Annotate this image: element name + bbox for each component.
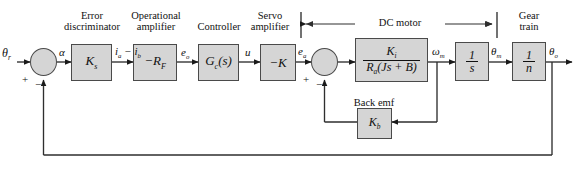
block-diagram: Error discriminator Operational amplifie… — [0, 0, 580, 177]
signal-current-difference: ia − ib — [115, 46, 141, 60]
caption-line-1: Operational — [131, 10, 181, 21]
motor-numerator: Ki — [363, 45, 419, 60]
summing-junction-input[interactable] — [30, 48, 57, 76]
block-ks[interactable]: Ks — [71, 44, 112, 81]
block-minus-rf-label: −RF — [144, 54, 166, 71]
signal-theta-r: θr — [2, 47, 11, 62]
block-kb-label: Kb — [369, 116, 381, 131]
integrator-fraction: 1 s — [466, 49, 478, 74]
integrator-numerator: 1 — [466, 49, 478, 61]
caption-back-emf: Back emf — [339, 97, 409, 108]
block-motor-transfer[interactable]: Ki Ra(Js + B) — [355, 38, 428, 82]
caption-dc-motor: DC motor — [355, 17, 445, 28]
signal-theta-m: θm — [491, 46, 501, 60]
block-minus-k[interactable]: −K — [260, 44, 296, 81]
sum2-plus-sign: + — [303, 74, 309, 85]
block-kb[interactable]: Kb — [357, 108, 392, 139]
caption-line-1: Error — [81, 10, 103, 21]
caption-line-1: DC motor — [379, 17, 421, 28]
signal-e-a: ea — [298, 46, 306, 60]
sum1-plus-sign: + — [22, 74, 28, 85]
caption-line-2: train — [519, 21, 538, 32]
caption-gear-train: Gear train — [502, 10, 556, 33]
caption-line-1: Servo — [258, 10, 283, 21]
signal-alpha: α — [59, 47, 65, 58]
gear-numerator: 1 — [523, 49, 535, 61]
sum2-minus-sign: − — [316, 79, 322, 90]
caption-line-2: amplifier — [251, 21, 289, 32]
block-gc-s[interactable]: Gc(s) — [198, 44, 239, 81]
block-ks-label: Ks — [86, 54, 98, 71]
block-minus-k-label: −K — [269, 56, 286, 69]
signal-theta-o: θo — [549, 46, 558, 60]
block-integrator[interactable]: 1 s — [455, 42, 489, 81]
motor-denominator: Ra(Js + B) — [363, 60, 419, 76]
gear-denominator: n — [523, 61, 535, 74]
motor-fraction: Ki Ra(Js + B) — [363, 45, 419, 76]
block-gear-ratio[interactable]: 1 n — [512, 42, 546, 81]
caption-line-1: Back emf — [354, 97, 395, 108]
caption-line-1: Controller — [197, 21, 240, 32]
sum1-minus-sign: − — [35, 79, 41, 90]
caption-line-2: amplifier — [137, 21, 175, 32]
signal-omega-m: ωm — [432, 46, 445, 60]
block-gc-s-label: Gc(s) — [205, 54, 232, 71]
gear-fraction: 1 n — [523, 49, 535, 74]
caption-line-1: Gear — [519, 10, 539, 21]
signal-u: u — [245, 47, 251, 58]
integrator-denominator: s — [466, 61, 478, 74]
signal-e-o: eo — [181, 47, 189, 61]
summing-junction-backemf[interactable] — [311, 48, 338, 76]
caption-servo-amplifier: Servo amplifier — [239, 10, 301, 33]
